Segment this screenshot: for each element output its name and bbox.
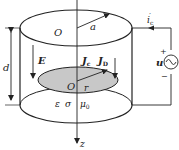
- label-r: r: [84, 83, 89, 93]
- capacitor-diagram: O a d E Jc JD O r ε σ μ0 z ic′ + u −: [0, 0, 179, 150]
- label-jc: Jc: [80, 55, 91, 67]
- label-jd: JD: [96, 55, 108, 67]
- label-d: d: [3, 62, 9, 73]
- label-mu0: μ0: [80, 99, 90, 110]
- label-z: z: [79, 139, 85, 149]
- label-sigma: σ: [65, 99, 72, 109]
- current-arrow-icon: [148, 26, 154, 31]
- label-minus: −: [161, 72, 168, 81]
- bottom-plate-front: [20, 105, 132, 123]
- label-u: u: [156, 57, 163, 68]
- label-plus: +: [160, 47, 167, 56]
- top-plate: [20, 10, 132, 46]
- label-epsilon: ε: [55, 99, 60, 109]
- label-o-top: O: [54, 27, 62, 38]
- label-a: a: [90, 21, 96, 32]
- label-o-disk: O: [67, 81, 75, 92]
- label-e: E: [37, 55, 46, 66]
- cross-section-disk: [38, 67, 118, 93]
- label-ic: ic′: [147, 12, 154, 26]
